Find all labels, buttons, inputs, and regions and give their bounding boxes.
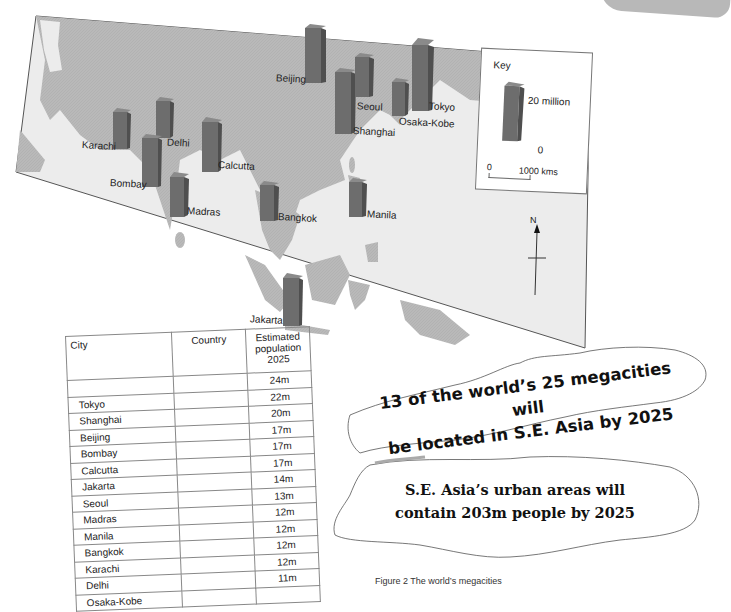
north-label: N	[530, 215, 537, 225]
banner-urban: S.E. Asia’s urban areas will contain 203…	[385, 478, 645, 524]
label-calcutta: Calcutta	[218, 159, 255, 172]
header-population: Estimated population 2025	[245, 327, 311, 374]
bar-osaka-kobe	[392, 78, 409, 116]
key-title: Key	[493, 59, 511, 71]
asia-map	[0, 0, 716, 370]
header-city: City	[66, 332, 174, 380]
label-seoul: Seoul	[357, 100, 383, 112]
key-bar-max: 20 million	[528, 95, 571, 108]
bar-seoul	[355, 53, 374, 97]
label-jakarta: Jakarta	[250, 313, 283, 326]
key-bar-min: 0	[538, 144, 544, 155]
map-key: Key 20 million 0 0 1000 kms	[475, 48, 593, 195]
bar-jakarta	[283, 273, 303, 326]
label-bangkok: Bangkok	[278, 211, 317, 224]
scale-start: 0	[487, 162, 492, 172]
bar-delhi	[156, 97, 174, 138]
label-bombay: Bombay	[110, 177, 147, 190]
megacity-table: City Country Estimated population 2025 2…	[65, 326, 321, 612]
key-bar-icon	[498, 80, 531, 146]
label-tokyo: Tokyo	[429, 100, 456, 112]
bar-manila	[349, 178, 367, 217]
header-country: Country	[171, 329, 247, 376]
figure-caption: Figure 2 The world’s megacities	[375, 576, 502, 586]
bar-beijing	[305, 24, 326, 83]
label-shanghai: Shanghai	[353, 125, 396, 138]
label-manila: Manila	[367, 208, 397, 221]
bar-bangkok	[260, 181, 279, 221]
label-beijing: Beijing	[276, 72, 307, 85]
label-delhi: Delhi	[167, 136, 190, 148]
label-madras: Madras	[187, 205, 221, 218]
label-karachi: Karachi	[82, 139, 116, 152]
scale-bar	[488, 173, 530, 180]
